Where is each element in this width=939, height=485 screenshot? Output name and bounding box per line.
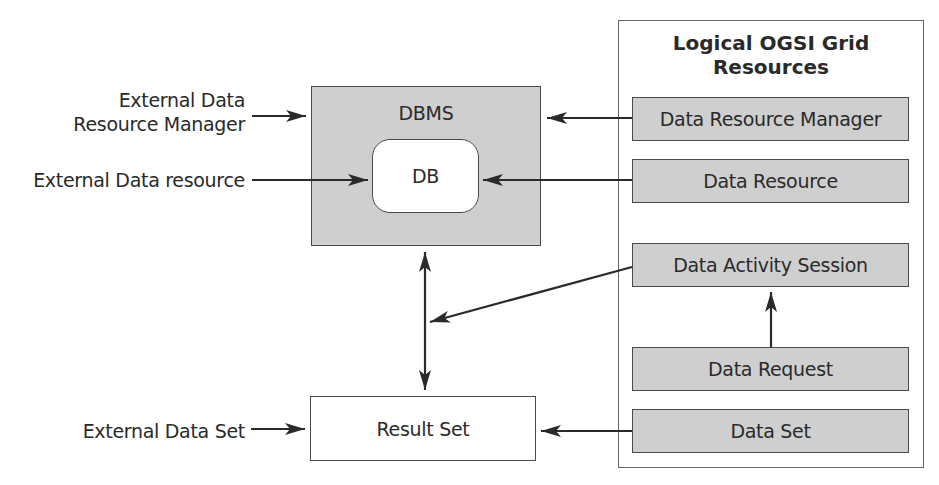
arrow-das-to-link	[430, 267, 632, 322]
connector-arrows	[0, 0, 939, 485]
